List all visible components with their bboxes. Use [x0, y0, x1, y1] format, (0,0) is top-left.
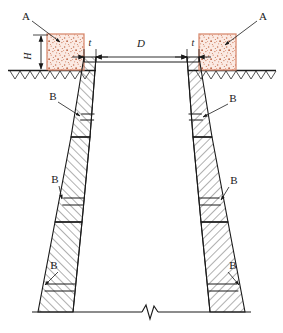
label-A-left: A — [22, 10, 30, 22]
shaft-wall-left — [38, 57, 96, 312]
wall-segment-lower-right — [201, 222, 245, 312]
label-A-right: A — [259, 10, 267, 22]
dim-t-right-label: t — [192, 37, 195, 48]
label-B-right-3: B — [229, 259, 236, 271]
ground-hatch-left — [10, 71, 90, 79]
wall-segment-middle-left — [55, 137, 90, 222]
ground-hatch-right — [196, 71, 276, 79]
dim-H-label: H — [22, 52, 33, 61]
label-B-left-1: B — [49, 90, 56, 102]
label-B-left-2: B — [51, 173, 58, 185]
shaft-inner-faces — [73, 57, 210, 312]
collar-block-left — [47, 34, 84, 70]
wall-segment-lower-left — [38, 222, 82, 312]
shaft-lining-figure: H t D t A A B — [0, 0, 283, 333]
leader-A-right — [225, 21, 257, 45]
diagram-root: H t D t A A B — [0, 0, 283, 333]
collar-underside-lines — [84, 57, 199, 62]
dimension-H: H — [22, 35, 48, 71]
label-B-left-3: B — [50, 259, 57, 271]
dim-D-label: D — [136, 37, 145, 49]
collar-block-right — [199, 34, 236, 70]
label-B-right-2: B — [230, 174, 237, 186]
label-B-right-1: B — [229, 92, 236, 104]
dim-t-left-label: t — [89, 37, 92, 48]
break-line-icon — [142, 305, 158, 319]
wall-segment-middle-right — [193, 137, 228, 222]
leader-A-left — [32, 21, 60, 42]
